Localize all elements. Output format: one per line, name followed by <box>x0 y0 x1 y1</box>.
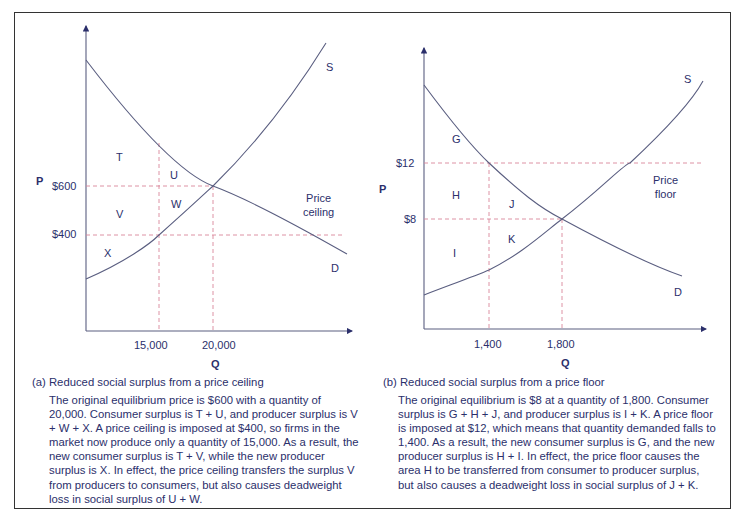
x-axis-label-a: Q <box>211 358 220 370</box>
x-tick-20000: 20,000 <box>202 339 236 351</box>
supply-label-b: S <box>684 73 691 85</box>
x-tick-1400: 1,400 <box>474 338 502 350</box>
region-K: K <box>508 233 515 245</box>
demand-label-b: D <box>674 286 682 298</box>
region-T: T <box>116 151 123 163</box>
supply-label-a: S <box>326 61 333 73</box>
y-tick-400: $400 <box>52 228 76 240</box>
demand-curve-a <box>86 60 347 254</box>
region-V: V <box>116 208 123 220</box>
x-axis-label-b: Q <box>561 357 570 369</box>
region-I: I <box>453 247 456 259</box>
region-G: G <box>452 133 461 145</box>
price-ceiling-annotation: Price ceiling <box>303 191 334 219</box>
x-tick-1800: 1,800 <box>547 338 575 350</box>
y-tick-12: $12 <box>396 157 414 169</box>
demand-curve-b <box>424 85 682 276</box>
region-U: U <box>170 169 178 181</box>
description-b: The original equilibrium is $8 at a quan… <box>398 393 718 492</box>
demand-label-a: D <box>331 262 339 274</box>
y-tick-600: $600 <box>52 180 76 192</box>
y-axis-label-a: P <box>36 175 43 187</box>
x-tick-15000: 15,000 <box>134 339 168 351</box>
region-J: J <box>509 198 515 210</box>
description-a: The original equilibrium price is $600 w… <box>49 393 359 506</box>
caption-a: (a) Reduced social surplus from a price … <box>32 376 264 388</box>
region-X: X <box>104 247 111 259</box>
panel-a-plot <box>86 26 352 331</box>
y-axis-label-b: P <box>379 183 386 195</box>
region-H: H <box>452 189 460 201</box>
region-W: W <box>171 198 181 210</box>
caption-b: (b) Reduced social surplus from a price … <box>383 376 605 388</box>
price-floor-annotation: Price floor <box>653 173 678 201</box>
y-tick-8: $8 <box>404 213 416 225</box>
